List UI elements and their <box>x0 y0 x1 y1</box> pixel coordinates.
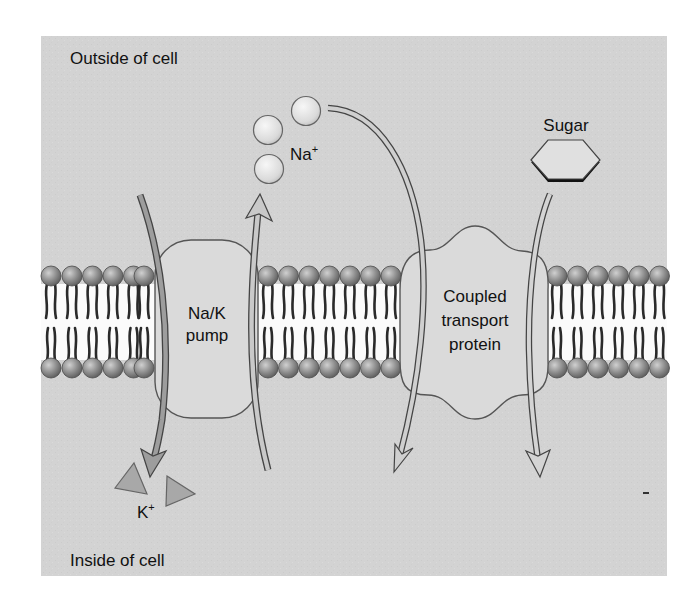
lipid-tail <box>285 328 286 360</box>
lipid-tail <box>117 284 118 318</box>
lipid-tail <box>46 284 47 318</box>
phospholipid-head <box>629 358 649 378</box>
lipid-tail <box>560 328 561 360</box>
phospholipid-head <box>547 266 567 286</box>
phospholipid-head <box>609 266 629 286</box>
lipid-tail <box>561 284 562 318</box>
lipid-tail <box>581 284 582 318</box>
lipid-tail <box>272 284 273 318</box>
phospholipid-head <box>340 266 360 286</box>
lipid-tail <box>386 284 387 318</box>
membrane-transport-diagram: Na+ K+ Sugar Na/K pump Coupled transport… <box>0 0 687 607</box>
phospholipid-head <box>279 266 299 286</box>
lipid-tail <box>88 284 89 318</box>
lipid-tail <box>553 328 554 360</box>
pump-label-line1: Na/K <box>188 304 226 323</box>
phospholipid-head <box>103 358 123 378</box>
sodium-ion <box>254 116 283 145</box>
phospholipid-head <box>340 358 360 378</box>
lipid-tail <box>137 328 138 360</box>
lipid-tail <box>643 284 644 318</box>
phospholipid-head <box>629 266 649 286</box>
lipid-tail <box>387 328 388 360</box>
phospholipid-head <box>361 358 381 378</box>
lipid-tail <box>552 284 553 318</box>
phospholipid-head <box>299 358 319 378</box>
lipid-tail <box>284 284 285 318</box>
phospholipid-head <box>568 266 588 286</box>
lipid-tail <box>67 284 68 318</box>
coupled-label-line3: protein <box>449 335 501 354</box>
phospholipid-head <box>83 358 103 378</box>
phospholipid-head <box>320 358 340 378</box>
lipid-tail <box>614 284 615 318</box>
lipid-tail <box>395 284 396 318</box>
lipid-tail <box>263 284 264 318</box>
lipid-tail <box>354 284 355 318</box>
lipid-tail <box>271 328 272 360</box>
sodium-ion <box>292 97 321 126</box>
phospholipid-head <box>62 358 82 378</box>
lipid-tail <box>634 284 635 318</box>
lipid-tail <box>96 284 97 318</box>
phospholipid-head <box>258 266 278 286</box>
lipid-tail <box>130 328 131 360</box>
lipid-tail <box>47 328 48 360</box>
lipid-tail <box>353 328 354 360</box>
sodium-ion <box>255 155 284 184</box>
lipid-tail <box>642 328 643 360</box>
lipid-tail <box>148 284 149 318</box>
lipid-tail <box>333 328 334 360</box>
lipid-tail <box>615 328 616 360</box>
lipid-tail <box>374 284 375 318</box>
lipid-tail <box>656 328 657 360</box>
phospholipid-head <box>547 358 567 378</box>
lipid-tail <box>394 328 395 360</box>
phospholipid-head <box>609 358 629 378</box>
coupled-label-line2: transport <box>441 311 508 330</box>
lipid-tail <box>345 284 346 318</box>
lipid-tail <box>573 284 574 318</box>
scan-artifact <box>643 492 649 494</box>
phospholipid-head <box>650 266 670 286</box>
inside-cell-label: Inside of cell <box>70 551 165 570</box>
lipid-tail <box>635 328 636 360</box>
lipid-tail <box>139 284 140 318</box>
phospholipid-head <box>134 358 154 378</box>
lipid-tail <box>292 328 293 360</box>
lipid-tail <box>75 328 76 360</box>
outside-cell-label: Outside of cell <box>70 49 178 68</box>
lipid-tail <box>312 328 313 360</box>
phospholipid-head <box>41 358 61 378</box>
lipid-tail <box>76 284 77 318</box>
phospholipid-head <box>103 266 123 286</box>
lipid-tail <box>55 284 56 318</box>
lipid-tail <box>346 328 347 360</box>
sugar-label: Sugar <box>543 116 589 135</box>
lipid-tail <box>367 328 368 360</box>
phospholipid-head <box>650 358 670 378</box>
phospholipid-head <box>588 266 608 286</box>
phospholipid-head <box>258 358 278 378</box>
lipid-tail <box>96 328 97 360</box>
lipid-tail <box>54 328 55 360</box>
phospholipid-head <box>381 358 401 378</box>
lipid-tail <box>593 284 594 318</box>
phospholipid-head <box>381 266 401 286</box>
lipid-tail <box>89 328 90 360</box>
lipid-tail <box>622 284 623 318</box>
lipid-tail <box>374 328 375 360</box>
lipid-tail <box>313 284 314 318</box>
phospholipid-head <box>361 266 381 286</box>
lipid-tail <box>129 284 130 318</box>
lipid-tail <box>655 284 656 318</box>
coupled-label-line1: Coupled <box>443 287 506 306</box>
lipid-tail <box>68 328 69 360</box>
lipid-bilayer <box>41 266 670 378</box>
lipid-tail <box>264 328 265 360</box>
pump-label-line2: pump <box>186 326 229 345</box>
lipid-tail <box>116 328 117 360</box>
lipid-tail <box>304 284 305 318</box>
phospholipid-head <box>588 358 608 378</box>
lipid-tail <box>140 328 141 360</box>
